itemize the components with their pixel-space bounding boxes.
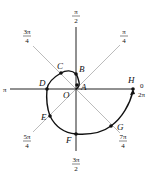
svg-text:2: 2 <box>74 17 78 25</box>
polar-spiral-diagram: ABCDEFGHπ2π43π45π47π43π2 O π 0 2π <box>0 0 158 178</box>
point-d <box>45 87 49 91</box>
point-g <box>109 124 113 128</box>
angle-label: 5π4 <box>23 133 31 150</box>
point-c <box>59 71 63 75</box>
origin-label: O <box>63 90 70 100</box>
point-label-c: C <box>57 61 64 71</box>
point-b <box>74 72 78 76</box>
point-h <box>131 87 135 91</box>
svg-text:4: 4 <box>121 142 125 150</box>
point-label-b: B <box>79 64 85 74</box>
zero-label: 0 <box>140 82 144 90</box>
point-label-e: E <box>40 112 47 122</box>
svg-text:4: 4 <box>25 37 29 45</box>
angle-label: π2 <box>72 8 80 25</box>
point-label-h: H <box>127 75 135 85</box>
angle-label: π4 <box>120 28 128 45</box>
svg-text:4: 4 <box>25 142 29 150</box>
svg-text:π: π <box>74 8 78 16</box>
angle-label: 3π4 <box>23 28 31 45</box>
svg-text:3π: 3π <box>23 28 31 36</box>
angle-label: 3π2 <box>72 156 80 173</box>
point-label-g: G <box>117 122 124 132</box>
point-a <box>75 83 79 87</box>
pi-label: π <box>3 86 7 94</box>
angle-label: 7π4 <box>119 133 127 150</box>
svg-text:3π: 3π <box>72 156 80 164</box>
svg-text:π: π <box>122 28 126 36</box>
point-label-d: D <box>38 78 46 88</box>
svg-text:4: 4 <box>122 37 126 45</box>
svg-text:7π: 7π <box>119 133 127 141</box>
point-label-f: F <box>65 135 72 145</box>
point-f <box>74 132 78 136</box>
two-pi-label: 2π <box>138 91 146 99</box>
svg-text:5π: 5π <box>23 133 31 141</box>
point-label-a: A <box>80 82 87 92</box>
point-e <box>48 114 52 118</box>
svg-text:2: 2 <box>74 165 78 173</box>
